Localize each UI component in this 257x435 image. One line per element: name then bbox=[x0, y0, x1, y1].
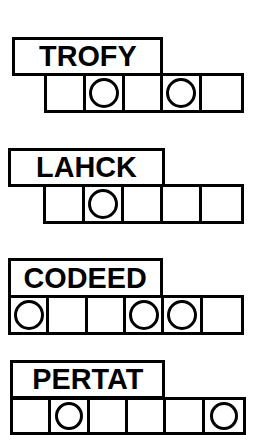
answer-cell-strip bbox=[10, 397, 246, 435]
answer-cell-letter bbox=[205, 400, 243, 432]
answer-cell[interactable] bbox=[163, 187, 202, 221]
scrambled-word-text: PERTAT bbox=[32, 364, 143, 394]
answer-cell[interactable] bbox=[11, 298, 49, 332]
scrambled-word-text: TROFY bbox=[39, 41, 137, 71]
answer-cell[interactable] bbox=[163, 76, 202, 110]
answer-cell-letter bbox=[11, 298, 46, 332]
answer-cell[interactable] bbox=[205, 400, 243, 432]
answer-cell[interactable] bbox=[46, 187, 85, 221]
answer-cell[interactable] bbox=[164, 298, 202, 332]
answer-cell-letter bbox=[124, 187, 160, 221]
answer-cell[interactable] bbox=[128, 400, 166, 432]
answer-cell[interactable] bbox=[166, 400, 204, 432]
answer-cell-letter bbox=[49, 298, 84, 332]
answer-cell[interactable] bbox=[124, 187, 163, 221]
answer-cell-letter bbox=[164, 298, 199, 332]
scrambled-word-box: PERTAT bbox=[10, 360, 165, 399]
answer-cell-strip bbox=[43, 184, 244, 224]
answer-cell[interactable] bbox=[125, 76, 164, 110]
answer-cell-letter bbox=[203, 298, 241, 332]
scrambled-word-box: TROFY bbox=[12, 37, 163, 76]
answer-cell-letter bbox=[13, 400, 48, 432]
answer-cell[interactable] bbox=[202, 187, 241, 221]
answer-cell[interactable] bbox=[86, 76, 125, 110]
answer-cell-strip bbox=[8, 295, 244, 335]
answer-cell-letter bbox=[128, 400, 163, 432]
answer-cell[interactable] bbox=[47, 76, 86, 110]
answer-cell-letter bbox=[166, 400, 201, 432]
answer-cell-letter bbox=[51, 400, 86, 432]
answer-cell[interactable] bbox=[88, 298, 126, 332]
answer-cell[interactable] bbox=[126, 298, 164, 332]
scrambled-word-box: LAHCK bbox=[8, 148, 165, 187]
answer-cell-letter bbox=[126, 298, 161, 332]
answer-cell-strip bbox=[44, 73, 244, 113]
answer-cell-letter bbox=[90, 400, 125, 432]
answer-cell-letter bbox=[163, 76, 199, 110]
scrambled-word-text: CODEED bbox=[24, 263, 147, 293]
answer-cell[interactable] bbox=[202, 76, 241, 110]
answer-cell[interactable] bbox=[90, 400, 128, 432]
answer-cell-letter bbox=[86, 76, 122, 110]
answer-cell-letter bbox=[163, 187, 199, 221]
answer-cell-letter bbox=[85, 187, 121, 221]
answer-cell-letter bbox=[202, 76, 241, 110]
answer-cell-letter bbox=[125, 76, 161, 110]
answer-cell[interactable] bbox=[49, 298, 87, 332]
answer-cell-letter bbox=[88, 298, 123, 332]
scrambled-word-text: LAHCK bbox=[36, 152, 137, 182]
answer-cell[interactable] bbox=[51, 400, 89, 432]
scrambled-word-box: CODEED bbox=[8, 258, 163, 298]
answer-cell[interactable] bbox=[203, 298, 241, 332]
answer-cell[interactable] bbox=[85, 187, 124, 221]
answer-cell-letter bbox=[46, 187, 82, 221]
answer-cell[interactable] bbox=[13, 400, 51, 432]
answer-cell-letter bbox=[47, 76, 83, 110]
answer-cell-letter bbox=[202, 187, 241, 221]
